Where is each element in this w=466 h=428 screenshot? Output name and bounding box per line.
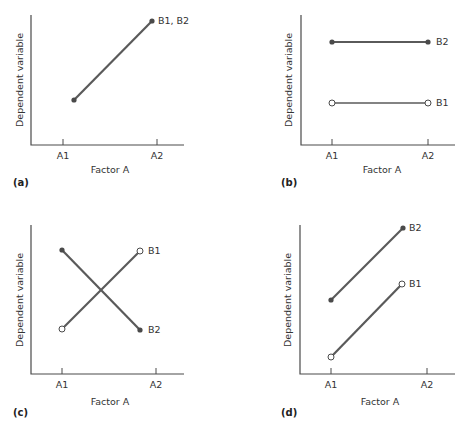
x-tick-label-a2: A2 bbox=[422, 150, 435, 161]
filled-marker bbox=[425, 39, 430, 44]
series-label: B1, B2 bbox=[158, 15, 189, 26]
filled-marker bbox=[137, 327, 142, 332]
filled-marker bbox=[149, 18, 154, 23]
y-axis-label: Dependent variable bbox=[283, 33, 294, 127]
open-marker bbox=[328, 354, 334, 360]
series-line-b1 bbox=[331, 284, 402, 357]
axes bbox=[301, 15, 455, 145]
series-label-b2: B2 bbox=[409, 222, 422, 233]
y-axis-label: Dependent variable bbox=[14, 33, 25, 127]
x-axis-label: Factor A bbox=[361, 396, 400, 407]
series-label-b1: B1 bbox=[409, 278, 422, 289]
filled-marker bbox=[328, 297, 333, 302]
series-label-b1: B1 bbox=[436, 97, 449, 108]
axes bbox=[31, 225, 184, 374]
filled-marker bbox=[329, 39, 334, 44]
filled-marker bbox=[71, 97, 76, 102]
filled-marker bbox=[400, 225, 405, 230]
open-marker bbox=[59, 326, 65, 332]
series-label-b2: B2 bbox=[436, 36, 449, 47]
x-tick-label-a2: A2 bbox=[421, 379, 434, 390]
panel-label: (a) bbox=[13, 177, 29, 188]
x-axis-label: Factor A bbox=[91, 164, 130, 175]
series-label-b2: B2 bbox=[148, 324, 161, 335]
series-line-b1b2 bbox=[74, 21, 152, 100]
y-axis-label: Dependent variable bbox=[14, 253, 25, 347]
x-tick-label-a1: A1 bbox=[57, 150, 70, 161]
panel-c: A1 A2 Factor A Dependent variable B1 B2 … bbox=[13, 225, 184, 418]
x-tick-label-a2: A2 bbox=[151, 150, 164, 161]
axes bbox=[300, 225, 455, 374]
open-marker bbox=[425, 100, 431, 106]
panel-label: (c) bbox=[13, 407, 28, 418]
x-tick-label-a1: A1 bbox=[56, 379, 69, 390]
open-marker bbox=[399, 281, 405, 287]
panel-d: A1 A2 Factor A Dependent variable B2 B1 … bbox=[281, 222, 455, 418]
panel-label: (b) bbox=[281, 177, 297, 188]
open-marker bbox=[329, 100, 335, 106]
series-line-b2 bbox=[331, 228, 403, 300]
x-tick-label-a1: A1 bbox=[325, 379, 338, 390]
series-label-b1: B1 bbox=[148, 245, 161, 256]
x-tick-label-a1: A1 bbox=[326, 150, 339, 161]
open-marker bbox=[137, 248, 143, 254]
x-tick-label-a2: A2 bbox=[150, 379, 163, 390]
panel-a: A1 A2 Factor A Dependent variable B1, B2… bbox=[13, 15, 189, 188]
filled-marker bbox=[59, 247, 64, 252]
x-axis-label: Factor A bbox=[91, 396, 130, 407]
panel-b: A1 A2 Factor A Dependent variable B2 B1 … bbox=[281, 15, 455, 188]
panel-label: (d) bbox=[281, 407, 297, 418]
x-axis-label: Factor A bbox=[363, 164, 402, 175]
y-axis-label: Dependent variable bbox=[282, 253, 293, 347]
axes bbox=[31, 15, 184, 145]
